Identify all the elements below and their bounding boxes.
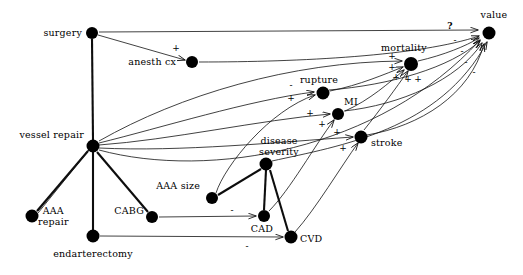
sign-surgery-anesth-cx: + bbox=[172, 44, 180, 53]
edge-disease_sev-aaa_size bbox=[218, 169, 261, 195]
node-aaa-size bbox=[206, 192, 218, 204]
label-aaa-size: AAA size bbox=[156, 181, 200, 192]
sign-mi-value: - bbox=[472, 68, 475, 77]
node-surgery bbox=[86, 27, 98, 39]
label-cvd: CVD bbox=[300, 234, 322, 245]
node-vessel-repair bbox=[87, 140, 100, 153]
node-disease-severity bbox=[260, 158, 273, 171]
sign-to-mi-plus-2: + bbox=[318, 120, 326, 129]
sign-to-mi-plus: + bbox=[306, 109, 314, 118]
node-cad bbox=[258, 210, 270, 222]
edge-endarterectomy-cvd bbox=[100, 236, 283, 237]
label-aaa-repair: AAA repair bbox=[38, 206, 69, 227]
edge-disease_sev-cad bbox=[264, 170, 266, 210]
node-stroke bbox=[355, 131, 368, 144]
label-disease-severity-line1: disease bbox=[260, 135, 297, 146]
label-surgery: surgery bbox=[43, 28, 82, 39]
node-value bbox=[483, 27, 496, 40]
sign-to-mortality-5: + bbox=[414, 75, 422, 84]
label-vessel-repair: vessel repair bbox=[19, 130, 84, 141]
label-cabg: CABG bbox=[114, 206, 144, 217]
node-cabg bbox=[146, 211, 158, 223]
label-disease-severity-line2: severity bbox=[259, 145, 299, 156]
node-rupture bbox=[317, 87, 330, 100]
label-stroke: stroke bbox=[371, 138, 403, 149]
label-value: value bbox=[481, 10, 508, 21]
edge-anesth_cx-value bbox=[199, 36, 479, 62]
label-mi: MI bbox=[344, 97, 358, 108]
node-aaa-repair bbox=[26, 210, 39, 223]
sign-to-rupture-plus: + bbox=[287, 94, 295, 103]
label-endarterectomy: endarterectomy bbox=[53, 249, 133, 260]
node-anesth-cx bbox=[186, 56, 198, 68]
edge-layer bbox=[37, 30, 487, 237]
label-anesth-cx: anesth cx bbox=[128, 57, 176, 68]
sign-to-rupture-minus: - bbox=[289, 81, 292, 90]
sign-to-mortality-3: + bbox=[392, 73, 400, 82]
edge-cvd-stroke bbox=[295, 143, 358, 232]
sign-anesth-cx-value: - bbox=[453, 36, 456, 45]
edge-stroke-mortality bbox=[364, 71, 408, 130]
edge-surgery-value bbox=[99, 30, 478, 32]
node-cvd bbox=[285, 231, 298, 244]
sign-surgery-value: ? bbox=[447, 22, 452, 31]
sign-to-stroke-plus-2: + bbox=[339, 144, 347, 153]
sign-endarterectomy-cvd: - bbox=[245, 242, 248, 251]
node-endarterectomy bbox=[87, 230, 100, 243]
edge-cabg-cad bbox=[159, 216, 256, 217]
label-aaa-repair-line2: repair bbox=[38, 215, 69, 226]
sign-to-stroke-plus: + bbox=[333, 128, 341, 137]
edge-surgery-vessel_repair bbox=[92, 39, 93, 140]
label-cad: CAD bbox=[251, 224, 273, 235]
edge-aaa_repair-ext bbox=[38, 148, 90, 211]
node-mi bbox=[332, 108, 344, 120]
causal-influence-diagram: surgery anesth cx value mortality ruptur… bbox=[0, 0, 523, 275]
sign-to-mortality-1: + bbox=[388, 52, 396, 61]
label-aaa-repair-line1: AAA bbox=[43, 205, 64, 216]
label-disease-severity: disease severity bbox=[259, 136, 299, 157]
node-mortality bbox=[404, 57, 418, 71]
sign-mortality-value: - bbox=[460, 47, 463, 56]
sign-to-mortality-2: + bbox=[388, 63, 396, 72]
edge-vessel_repair-cabg bbox=[97, 152, 148, 212]
label-rupture: rupture bbox=[300, 75, 338, 86]
sign-cabg-cad: - bbox=[230, 206, 233, 215]
sign-rupture-value: - bbox=[464, 58, 467, 67]
sign-to-mortality-4: + bbox=[404, 75, 412, 84]
